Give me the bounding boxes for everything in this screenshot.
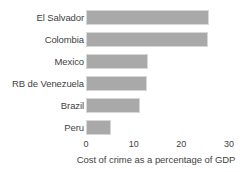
bar [86,54,148,69]
bar-row: Brazil [0,97,250,115]
category-label: RB de Venezuela [12,75,84,93]
bar-track [86,32,208,47]
x-axis-title: Cost of crime as a percentage of GDP [0,153,250,166]
bar-row: Colombia [0,31,250,49]
bar [86,76,147,91]
bar-row: El Salvador [0,9,250,27]
bar [86,32,208,47]
x-axis-tick: 0 [71,138,101,150]
x-axis-tick: 20 [166,138,196,150]
bar [86,98,140,113]
bar-track [86,54,148,69]
bar-track [86,10,209,25]
x-axis-tick: 10 [119,138,149,150]
category-label: Brazil [61,97,84,115]
bar-row: Peru [0,119,250,137]
category-label: Colombia [45,31,84,49]
category-label: Peru [64,119,84,137]
x-axis-title-text: Cost of crime as a percentage of GDP [15,153,236,166]
bar [86,120,111,135]
bar [86,10,209,25]
x-axis-tick: 30 [214,138,244,150]
x-axis-tick-labels: 0102030 [0,138,250,152]
bar-chart: El SalvadorColombiaMexicoRB de Venezuela… [0,0,250,172]
bar-row: RB de Venezuela [0,75,250,93]
category-label: El Salvador [37,9,84,27]
category-label: Mexico [55,53,85,71]
bar-track [86,76,147,91]
bar-row: Mexico [0,53,250,71]
bar-track [86,98,140,113]
bar-track [86,120,111,135]
